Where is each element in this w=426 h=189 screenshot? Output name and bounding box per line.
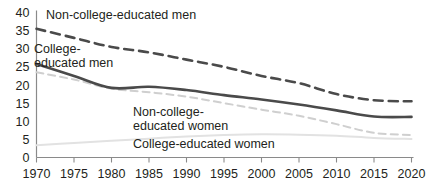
- x-tick-label: 2015: [360, 167, 388, 181]
- x-tick-label: 2000: [248, 167, 276, 181]
- x-tick-label: 1970: [23, 167, 51, 181]
- x-tick-label: 1975: [60, 167, 88, 181]
- ann-noncollege-men-label: Non-college-educated men: [46, 8, 196, 22]
- series-line-college-educated-men: [37, 64, 412, 117]
- y-tick-label: 25: [16, 60, 30, 74]
- y-tick-label: 35: [16, 24, 30, 38]
- y-tick-label: 5: [23, 133, 30, 147]
- x-tick-label: 1995: [210, 167, 238, 181]
- y-tick-label: 20: [16, 79, 30, 93]
- y-tick-label: 0: [23, 151, 30, 165]
- x-tick-label: 1980: [98, 167, 126, 181]
- ann-college-men-label: educated men: [34, 56, 113, 70]
- y-tick-label: 40: [16, 6, 30, 20]
- ann-noncollege-women-label: educated women: [133, 119, 228, 133]
- ann-noncollege-women-label: Non-college-: [133, 105, 204, 119]
- ann-college-men-label: College-: [34, 42, 81, 56]
- y-tick-label: 15: [16, 97, 30, 111]
- chart-plot-area: 0510152025303540197019751980198519901995…: [0, 0, 426, 189]
- x-tick-label: 1985: [135, 167, 163, 181]
- x-tick-label: 2020: [398, 167, 426, 181]
- y-tick-label: 30: [16, 42, 30, 56]
- x-tick-label: 2010: [323, 167, 351, 181]
- y-tick-label: 10: [16, 115, 30, 129]
- line-chart: 0510152025303540197019751980198519901995…: [0, 0, 426, 189]
- x-tick-label: 1990: [173, 167, 201, 181]
- ann-college-women-label: College-educated women: [133, 137, 275, 151]
- x-tick-label: 2005: [285, 167, 313, 181]
